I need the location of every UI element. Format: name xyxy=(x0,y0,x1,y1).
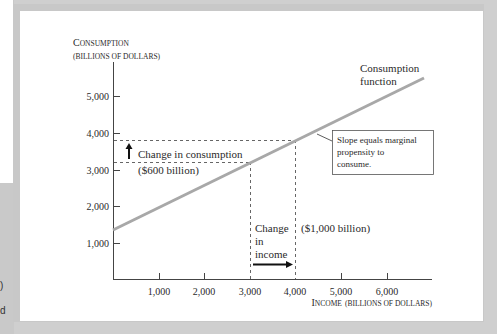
slope-callout-text-2: propensity to xyxy=(337,147,385,157)
x-ticks xyxy=(160,273,388,279)
svg-text:5,000: 5,000 xyxy=(330,286,353,297)
x-tick-labels: 1,000 2,000 3,000 4,000 5,000 6,000 xyxy=(148,286,399,297)
change-in-consumption-value: ($600 billion) xyxy=(138,164,199,177)
svg-text:4,000: 4,000 xyxy=(87,128,110,139)
svg-text:3,000: 3,000 xyxy=(239,286,262,297)
svg-text:2,000: 2,000 xyxy=(193,286,216,297)
y-tick-labels: 5,000 4,000 3,000 2,000 1,000 xyxy=(87,91,110,249)
svg-text:4,000: 4,000 xyxy=(284,286,307,297)
svg-text:5,000: 5,000 xyxy=(87,91,110,102)
y-axis-subtitle: (BILLIONS OF DOLLARS) xyxy=(73,52,161,61)
change-in-income-label-3: income xyxy=(255,248,287,260)
right-arrow-icon xyxy=(253,261,293,268)
x-axis-title: INCOME(BILLIONS OF DOLLARS) xyxy=(311,297,432,308)
slope-callout-text-3: consume. xyxy=(337,159,371,169)
change-in-income-label: Change xyxy=(255,222,289,234)
svg-text:1,000: 1,000 xyxy=(87,238,110,249)
y-axis-title: CONSUMPTION xyxy=(73,37,129,48)
svg-text:1,000: 1,000 xyxy=(148,286,171,297)
consumption-chart: CONSUMPTION (BILLIONS OF DOLLARS) 5,000 … xyxy=(0,0,497,334)
consumption-function-label-2: function xyxy=(360,75,397,87)
change-in-income-value: ($1,000 billion) xyxy=(301,222,370,235)
svg-text:3,000: 3,000 xyxy=(87,165,110,176)
y-ticks xyxy=(113,97,120,244)
up-arrow-icon xyxy=(126,143,133,159)
callout-leader xyxy=(317,134,332,141)
svg-text:2,000: 2,000 xyxy=(87,201,110,212)
change-in-consumption-label: Change in consumption xyxy=(138,148,243,160)
svg-text:6,000: 6,000 xyxy=(376,286,399,297)
slope-callout-text-1: Slope equals marginal xyxy=(337,135,417,145)
change-in-income-label-2: in xyxy=(255,235,264,247)
consumption-function-label: Consumption xyxy=(360,62,420,74)
